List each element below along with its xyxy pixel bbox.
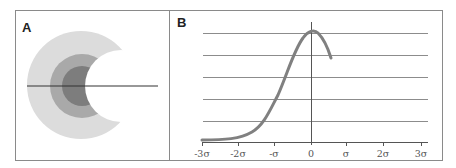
panel-b-label: B: [177, 15, 186, 30]
tick-label: -3σ: [194, 148, 210, 159]
tick-label: -σ: [269, 148, 279, 159]
tick-label: 2σ: [377, 148, 390, 159]
tick-label: σ: [343, 148, 350, 159]
tick-label: -2σ: [230, 148, 246, 159]
figure: A B: [0, 0, 456, 168]
tick-label: 0: [308, 148, 314, 159]
concentric-disks: [27, 31, 135, 139]
panel-a-label: A: [22, 20, 32, 35]
tick-label: 3σ: [415, 148, 428, 159]
